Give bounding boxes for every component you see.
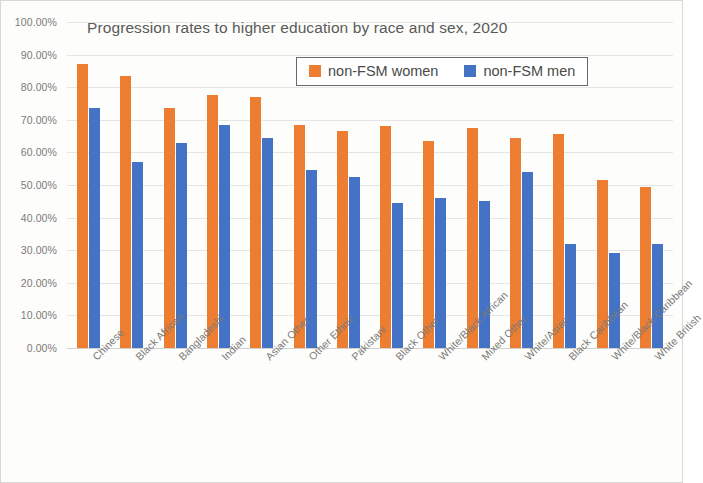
y-axis-tick-label: 80.00%: [21, 81, 57, 93]
bar-men[interactable]: [392, 203, 403, 348]
y-axis-tick-label: 30.00%: [21, 244, 57, 256]
legend-item-women[interactable]: non-FSM women: [309, 63, 438, 79]
bar-women[interactable]: [250, 97, 261, 348]
y-axis-tick-label: 60.00%: [21, 146, 57, 158]
chart-legend: non-FSM women non-FSM men: [296, 57, 588, 86]
y-axis-tick-label: 0.00%: [27, 342, 57, 354]
legend-swatch-women-icon: [309, 65, 321, 77]
y-axis-tick-label: 50.00%: [21, 179, 57, 191]
bar-group: [154, 22, 197, 348]
y-axis: 0.00%10.00%20.00%30.00%40.00%50.00%60.00…: [1, 22, 63, 348]
bar-group: [67, 22, 110, 348]
bar-women[interactable]: [120, 76, 131, 348]
bar-women[interactable]: [380, 126, 391, 348]
bar-women[interactable]: [207, 95, 218, 348]
y-axis-tick-label: 40.00%: [21, 212, 57, 224]
bar-men[interactable]: [262, 138, 273, 348]
y-axis-tick-label: 10.00%: [21, 309, 57, 321]
bar-men[interactable]: [132, 162, 143, 348]
legend-swatch-men-icon: [464, 65, 476, 77]
bar-women[interactable]: [77, 64, 88, 348]
bar-men[interactable]: [652, 244, 663, 348]
x-axis-labels: ChineseBlack AfricanBangladeshiIndianAsi…: [67, 348, 673, 478]
bar-men[interactable]: [565, 244, 576, 348]
y-axis-tick-label: 90.00%: [21, 49, 57, 61]
y-axis-tick-label: 100.00%: [15, 16, 57, 28]
y-axis-tick-label: 70.00%: [21, 114, 57, 126]
y-axis-tick-label: 20.00%: [21, 277, 57, 289]
bar-group: [110, 22, 153, 348]
legend-item-men[interactable]: non-FSM men: [464, 63, 575, 79]
bar-group: [240, 22, 283, 348]
chart-title: Progression rates to higher education by…: [87, 19, 507, 37]
bar-group: [197, 22, 240, 348]
bar-men[interactable]: [89, 108, 100, 348]
legend-label-men: non-FSM men: [483, 63, 575, 79]
legend-label-women: non-FSM women: [328, 63, 438, 79]
